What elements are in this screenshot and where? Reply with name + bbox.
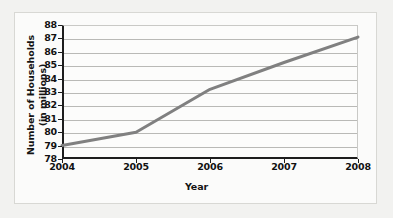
y-tick-label-82: 82	[27, 99, 57, 110]
y-tick-mark-88	[58, 25, 62, 26]
y-tick-mark-81	[58, 119, 62, 120]
series-line-number-of-households	[62, 37, 358, 146]
x-tick-mark-2005	[136, 159, 137, 163]
y-tick-label-85: 85	[27, 59, 57, 70]
line-chart: Number of Households (in millions) 88878…	[15, 13, 378, 205]
y-tick-label-83: 83	[27, 86, 57, 97]
y-tick-label-86: 86	[27, 46, 57, 57]
y-tick-label-88: 88	[27, 19, 57, 30]
y-tick-label-80: 80	[27, 126, 57, 137]
y-tick-label-81: 81	[27, 113, 57, 124]
chart-figure-card: Number of Households (in millions) 88878…	[14, 12, 377, 204]
y-tick-label-79: 79	[27, 140, 57, 151]
y-tick-mark-82	[58, 105, 62, 106]
x-tick-mark-2008	[358, 159, 359, 163]
y-tick-mark-86	[58, 52, 62, 53]
y-tick-mark-80	[58, 132, 62, 133]
x-axis-title: Year	[15, 181, 378, 192]
y-tick-mark-83	[58, 92, 62, 93]
x-tick-mark-2004	[62, 159, 63, 163]
y-tick-mark-85	[58, 65, 62, 66]
y-tick-mark-79	[58, 146, 62, 147]
y-tick-mark-87	[58, 38, 62, 39]
data-series-layer	[62, 25, 358, 159]
y-tick-label-84: 84	[27, 73, 57, 84]
x-tick-mark-2007	[284, 159, 285, 163]
y-tick-label-87: 87	[27, 32, 57, 43]
x-tick-mark-2006	[210, 159, 211, 163]
y-tick-mark-84	[58, 79, 62, 80]
